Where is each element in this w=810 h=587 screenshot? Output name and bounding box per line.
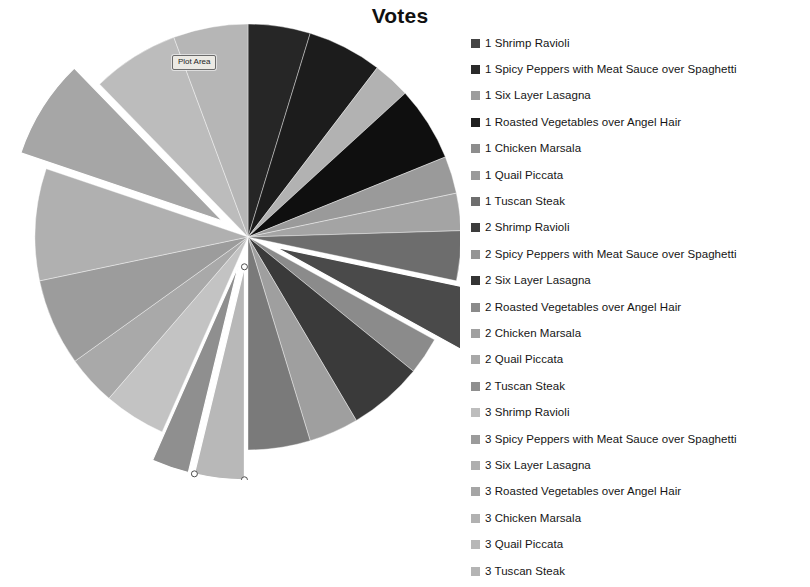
legend-swatch-icon: [471, 65, 480, 74]
legend-item[interactable]: 3 Quail Piccata: [464, 531, 808, 557]
legend-swatch-icon: [471, 514, 480, 523]
legend-item-label: 2 Spicy Peppers with Meat Sauce over Spa…: [485, 248, 737, 261]
legend-item[interactable]: 2 Six Layer Lasagna: [464, 268, 808, 294]
legend-swatch-icon: [471, 487, 480, 496]
legend-swatch-icon: [471, 567, 480, 576]
pie-chart[interactable]: [0, 0, 460, 480]
legend-item[interactable]: 2 Tuscan Steak: [464, 373, 808, 399]
legend-swatch-icon: [471, 435, 480, 444]
legend-item-label: 1 Quail Piccata: [485, 169, 563, 182]
legend-item[interactable]: 3 Six Layer Lasagna: [464, 452, 808, 478]
legend-item[interactable]: 1 Spicy Peppers with Meat Sauce over Spa…: [464, 56, 808, 82]
legend-item-label: 3 Tuscan Steak: [485, 565, 565, 578]
legend-swatch-icon: [471, 303, 480, 312]
pie-slice-group: [21, 24, 460, 480]
legend-item[interactable]: 3 Roasted Vegetables over Angel Hair: [464, 479, 808, 505]
selection-handle[interactable]: [241, 264, 247, 270]
legend-item[interactable]: 1 Quail Piccata: [464, 162, 808, 188]
legend-swatch-icon: [471, 171, 480, 180]
legend-item[interactable]: 3 Tuscan Steak: [464, 558, 808, 584]
legend-swatch-icon: [471, 91, 480, 100]
selection-handle[interactable]: [241, 477, 247, 480]
legend-swatch-icon: [471, 250, 480, 259]
legend-item-label: 2 Six Layer Lasagna: [485, 274, 591, 287]
legend-swatch-icon: [471, 461, 480, 470]
legend-item-label: 1 Spicy Peppers with Meat Sauce over Spa…: [485, 63, 737, 76]
legend-swatch-icon: [471, 144, 480, 153]
legend-item-label: 3 Shrimp Ravioli: [485, 406, 570, 419]
legend-swatch-icon: [471, 39, 480, 48]
legend-item-label: 3 Quail Piccata: [485, 538, 563, 551]
plot-area[interactable]: Plot Area: [0, 0, 460, 480]
legend-item-label: 1 Chicken Marsala: [485, 142, 581, 155]
legend-item[interactable]: 1 Shrimp Ravioli: [464, 30, 808, 56]
chart-legend: 1 Shrimp Ravioli1 Spicy Peppers with Mea…: [464, 30, 808, 584]
legend-swatch-icon: [471, 329, 480, 338]
legend-item[interactable]: 1 Six Layer Lasagna: [464, 83, 808, 109]
legend-item[interactable]: 2 Quail Piccata: [464, 347, 808, 373]
legend-swatch-icon: [471, 355, 480, 364]
legend-item-label: 3 Chicken Marsala: [485, 512, 581, 525]
legend-item-label: 1 Roasted Vegetables over Angel Hair: [485, 116, 681, 129]
legend-item-label: 2 Roasted Vegetables over Angel Hair: [485, 301, 681, 314]
legend-item-label: 3 Six Layer Lasagna: [485, 459, 591, 472]
legend-item-label: 1 Tuscan Steak: [485, 195, 565, 208]
legend-item[interactable]: 3 Chicken Marsala: [464, 505, 808, 531]
legend-item[interactable]: 3 Shrimp Ravioli: [464, 399, 808, 425]
legend-item[interactable]: 2 Spicy Peppers with Meat Sauce over Spa…: [464, 241, 808, 267]
legend-item-label: 2 Tuscan Steak: [485, 380, 565, 393]
legend-item[interactable]: 2 Chicken Marsala: [464, 320, 808, 346]
legend-swatch-icon: [471, 197, 480, 206]
legend-item-label: 3 Spicy Peppers with Meat Sauce over Spa…: [485, 433, 737, 446]
legend-item[interactable]: 2 Roasted Vegetables over Angel Hair: [464, 294, 808, 320]
legend-item-label: 2 Quail Piccata: [485, 353, 563, 366]
legend-item[interactable]: 1 Roasted Vegetables over Angel Hair: [464, 109, 808, 135]
legend-item-label: 2 Chicken Marsala: [485, 327, 581, 340]
legend-item[interactable]: 2 Shrimp Ravioli: [464, 215, 808, 241]
legend-item[interactable]: 1 Chicken Marsala: [464, 136, 808, 162]
legend-item-label: 2 Shrimp Ravioli: [485, 221, 570, 234]
plot-area-tooltip: Plot Area: [172, 55, 216, 70]
legend-item[interactable]: 3 Spicy Peppers with Meat Sauce over Spa…: [464, 426, 808, 452]
legend-swatch-icon: [471, 118, 480, 127]
legend-swatch-icon: [471, 276, 480, 285]
legend-swatch-icon: [471, 408, 480, 417]
legend-item[interactable]: 1 Tuscan Steak: [464, 188, 808, 214]
legend-swatch-icon: [471, 382, 480, 391]
legend-item-label: 3 Roasted Vegetables over Angel Hair: [485, 485, 681, 498]
legend-item-label: 1 Shrimp Ravioli: [485, 37, 570, 50]
legend-swatch-icon: [471, 540, 480, 549]
legend-swatch-icon: [471, 223, 480, 232]
selection-handle[interactable]: [191, 471, 197, 477]
legend-item-label: 1 Six Layer Lasagna: [485, 89, 591, 102]
